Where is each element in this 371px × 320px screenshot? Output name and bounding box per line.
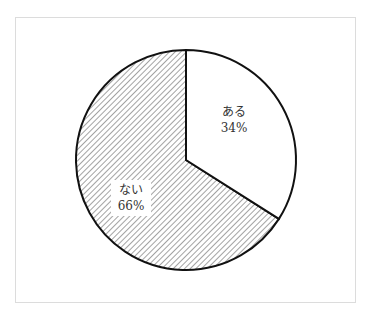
- slice-label-aru: ある 34%: [214, 104, 254, 136]
- slice-label-nai: ない 66%: [111, 180, 151, 216]
- slice-percent-aru: 34%: [214, 120, 254, 136]
- slice-name-aru: ある: [214, 104, 254, 120]
- slice-name-nai: ない: [111, 182, 151, 198]
- slice-percent-nai: 66%: [111, 198, 151, 214]
- pie-chart: [0, 0, 371, 320]
